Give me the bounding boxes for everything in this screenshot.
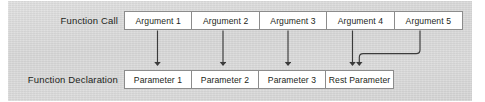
row-label-function-declaration: Function Declaration [4, 74, 118, 85]
argument-cell-3: Argument 3 [260, 12, 327, 29]
parameter-cell-3: Parameter 3 [259, 71, 326, 88]
parameter-cell-1: Parameter 1 [125, 71, 192, 88]
parameter-row: Parameter 1 Parameter 2 Parameter 3 Rest… [124, 70, 394, 89]
parameter-cell-2: Parameter 2 [192, 71, 259, 88]
argument-cell-5: Argument 5 [395, 12, 462, 29]
row-label-function-call: Function Call [10, 15, 118, 26]
argument-cell-1: Argument 1 [125, 12, 192, 29]
argument-row: Argument 1 Argument 2 Argument 3 Argumen… [124, 11, 463, 30]
argument-cell-2: Argument 2 [192, 12, 259, 29]
parameter-cell-4: Rest Parameter [326, 71, 393, 88]
diagram-root: Function Call Function Declaration Argum… [0, 0, 485, 102]
argument-cell-4: Argument 4 [327, 12, 394, 29]
